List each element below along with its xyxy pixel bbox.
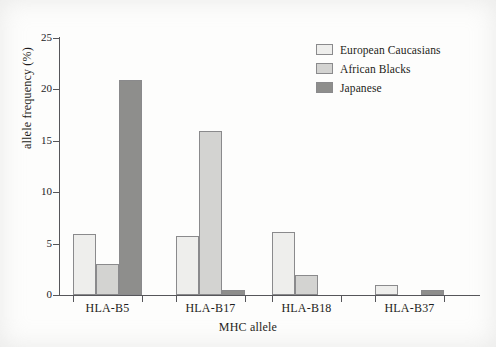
bar [199, 131, 222, 295]
y-axis-tick-label: 5 [16, 238, 52, 249]
x-axis-category-label: HLA-B17 [166, 302, 256, 316]
legend-item: Japanese [316, 79, 476, 96]
legend-label: African Blacks [340, 63, 411, 75]
bar [421, 290, 444, 295]
y-axis-tick [53, 295, 60, 296]
chart-figure: 0510152025 HLA-B5HLA-B17HLA-B18HLA-B37 M… [0, 0, 496, 347]
y-axis-title-wrapper: allele frequency (%) [20, 18, 36, 178]
y-axis-tick-label: 10 [16, 186, 52, 197]
bar [73, 234, 96, 295]
bar [375, 285, 398, 295]
x-axis-title: MHC allele [0, 320, 496, 335]
legend-item: African Blacks [316, 60, 476, 77]
bar [119, 80, 142, 295]
legend-swatch-icon [316, 82, 333, 93]
bar [96, 264, 119, 295]
y-axis-tick-label: 0 [16, 289, 52, 300]
bar [176, 236, 199, 295]
x-axis-category-label: HLA-B5 [63, 302, 153, 316]
legend-swatch-icon [316, 63, 333, 74]
x-axis-category-label: HLA-B18 [262, 302, 352, 316]
legend-label: European Caucasians [340, 44, 441, 56]
y-axis-title: allele frequency (%) [20, 18, 35, 178]
x-axis-line [59, 295, 480, 296]
legend-label: Japanese [340, 82, 382, 94]
bar [272, 232, 295, 295]
legend-swatch-icon [316, 44, 333, 55]
legend-item: European Caucasians [316, 41, 476, 58]
bar [295, 275, 318, 295]
chart-legend: European CaucasiansAfrican BlacksJapanes… [316, 41, 476, 98]
bar [222, 290, 245, 295]
x-axis-category-label: HLA-B37 [365, 302, 455, 316]
